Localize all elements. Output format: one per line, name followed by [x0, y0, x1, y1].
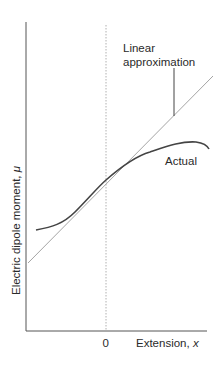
- linear-label-line2: approximation: [123, 56, 195, 68]
- y-axis-symbol: μ: [10, 165, 22, 173]
- x-axis-label: Extension, x: [136, 337, 200, 349]
- linear-label-line1: Linear: [123, 42, 155, 54]
- linear-approximation-line: [28, 76, 213, 263]
- y-axis-label: Electric dipole moment, μ: [10, 165, 22, 295]
- y-axis-label-text: Electric dipole moment,: [10, 172, 22, 295]
- actual-label: Actual: [165, 155, 197, 167]
- x-axis-label-text: Extension,: [136, 337, 193, 349]
- dipole-moment-diagram: Linear approximation Actual 0 Extension,…: [0, 0, 222, 366]
- x-zero-tick-label: 0: [103, 337, 109, 349]
- x-axis-symbol: x: [192, 337, 200, 349]
